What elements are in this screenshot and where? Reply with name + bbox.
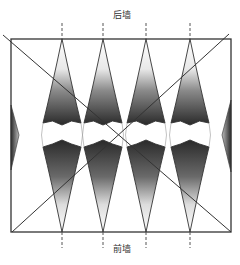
right-side-wedge — [222, 100, 231, 172]
lens-lower-4 — [171, 140, 209, 232]
lens-upper-1 — [43, 39, 81, 125]
diagonal-line-1 — [3, 35, 231, 232]
left-side-wedge — [11, 105, 19, 170]
axis-ticks — [62, 23, 190, 248]
lens-lower-3 — [127, 140, 165, 232]
lens-upper-2 — [84, 39, 122, 125]
lens-upper-3 — [127, 39, 165, 125]
lens-group — [42, 39, 211, 232]
lens-lower-2 — [84, 140, 122, 232]
light-distribution-diagram — [0, 0, 240, 265]
